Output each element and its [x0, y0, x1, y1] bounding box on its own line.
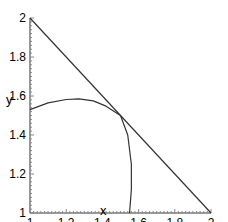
y-axis-label: y [6, 92, 13, 107]
axes: 11.21.41.61.8211.21.41.61.82 [9, 11, 214, 222]
x-axis-label: x [100, 203, 107, 218]
x-tick-label: 2 [208, 216, 215, 222]
x-tick-label: 1.2 [58, 216, 75, 222]
y-tick-label: 1.2 [9, 167, 26, 181]
y-tick-label: 2 [19, 11, 26, 25]
y-tick-label: 1.8 [9, 50, 26, 64]
y-tick-label: 1.4 [9, 128, 26, 142]
series-curve [30, 99, 131, 213]
x-tick-label: 1 [27, 216, 34, 222]
y-tick-label: 1 [19, 206, 26, 220]
plot-area: 11.21.41.61.8211.21.41.61.82 x y [0, 0, 228, 222]
x-tick-label: 1.6 [130, 216, 147, 222]
series-layer [30, 18, 211, 213]
x-tick-label: 1.8 [166, 216, 183, 222]
